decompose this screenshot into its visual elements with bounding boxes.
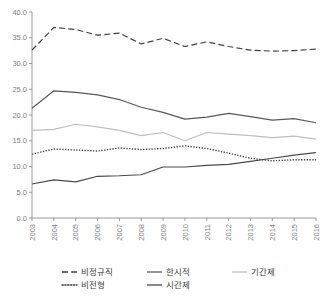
series-line-비정규직: [32, 27, 316, 51]
y-tick-label: 10.0: [12, 162, 27, 171]
x-tick-label: 2004: [50, 224, 59, 241]
x-tick-label: 2010: [181, 224, 190, 241]
x-tick-label: 2015: [290, 224, 299, 241]
y-tick-label: 5.0: [17, 188, 27, 197]
y-tick-label: 25.0: [12, 85, 27, 94]
x-axis: 2003200420052006200720082009201020112012…: [28, 218, 320, 241]
x-tick-label: 2016: [312, 224, 320, 241]
chart-canvas: 0.05.010.015.020.025.030.035.040.0 20032…: [0, 0, 320, 296]
chart-legend: 비정규직한시적기간제비전형시간제: [62, 267, 275, 290]
y-axis: 0.05.010.015.020.025.030.035.040.0: [12, 8, 32, 223]
x-tick-label: 2003: [28, 224, 37, 241]
series-lines: [32, 27, 316, 184]
x-tick-label: 2009: [159, 224, 168, 241]
x-tick-label: 2012: [224, 224, 233, 241]
x-tick-label: 2013: [246, 224, 255, 241]
series-line-시간제: [32, 153, 316, 184]
legend-label-비정규직: 비정규직: [81, 267, 113, 277]
legend-label-한시적: 한시적: [166, 267, 190, 277]
x-tick-label: 2014: [268, 224, 277, 241]
legend-label-기간제: 기간제: [251, 267, 275, 277]
y-tick-label: 30.0: [12, 59, 27, 68]
y-tick-label: 15.0: [12, 136, 27, 145]
x-tick-label: 2005: [71, 224, 80, 241]
x-tick-label: 2006: [93, 224, 102, 241]
x-tick-label: 2011: [203, 224, 212, 240]
series-line-한시적: [32, 91, 316, 123]
legend-label-비전형: 비전형: [81, 280, 105, 290]
x-tick-label: 2007: [115, 224, 124, 241]
series-line-기간제: [32, 124, 316, 140]
line-chart: 0.05.010.015.020.025.030.035.040.0 20032…: [0, 0, 320, 296]
y-tick-label: 20.0: [12, 111, 27, 120]
y-tick-label: 40.0: [12, 8, 27, 17]
x-tick-label: 2008: [137, 224, 146, 241]
legend-label-시간제: 시간제: [166, 280, 190, 290]
y-tick-label: 35.0: [12, 33, 27, 42]
y-tick-label: 0.0: [17, 214, 27, 223]
